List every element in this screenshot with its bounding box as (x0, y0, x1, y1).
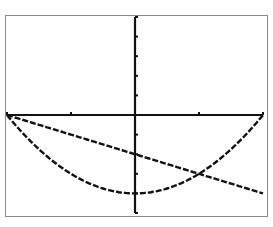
graph-plot (0, 0, 273, 227)
axes (7, 17, 263, 213)
